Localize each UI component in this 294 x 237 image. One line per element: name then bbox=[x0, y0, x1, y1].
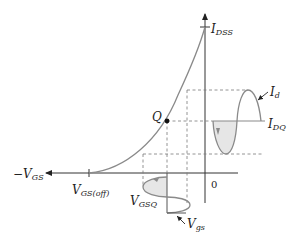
neg-vgs-label: −VGS bbox=[13, 167, 44, 182]
q-label: Q bbox=[152, 110, 162, 124]
origin-label: 0 bbox=[211, 179, 217, 190]
jfet-transfer-diagram: IDSS −VGS VGS(off) 0 Q Id IDQ VGSQ Vgs bbox=[0, 0, 294, 237]
vgs-label: Vgs bbox=[187, 217, 205, 232]
id-wave-fill bbox=[213, 121, 237, 154]
vgsoff-label: VGS(off) bbox=[72, 183, 109, 198]
transfer-curve bbox=[89, 27, 205, 173]
vgs-pointer bbox=[177, 216, 185, 224]
idss-label: IDSS bbox=[210, 22, 234, 37]
diagram-svg: IDSS −VGS VGS(off) 0 Q Id IDQ VGSQ Vgs bbox=[0, 0, 294, 237]
vgsq-label: VGSQ bbox=[130, 194, 158, 209]
id-pointer bbox=[258, 92, 268, 100]
idq-label: IDQ bbox=[267, 117, 286, 132]
id-label: Id bbox=[269, 85, 280, 100]
q-point bbox=[165, 119, 170, 124]
